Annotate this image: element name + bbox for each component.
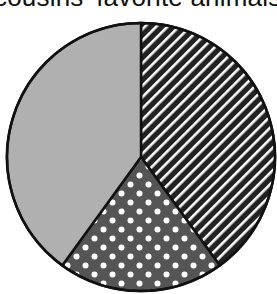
pie-slices: [7, 23, 275, 291]
pie-chart: [0, 0, 277, 294]
